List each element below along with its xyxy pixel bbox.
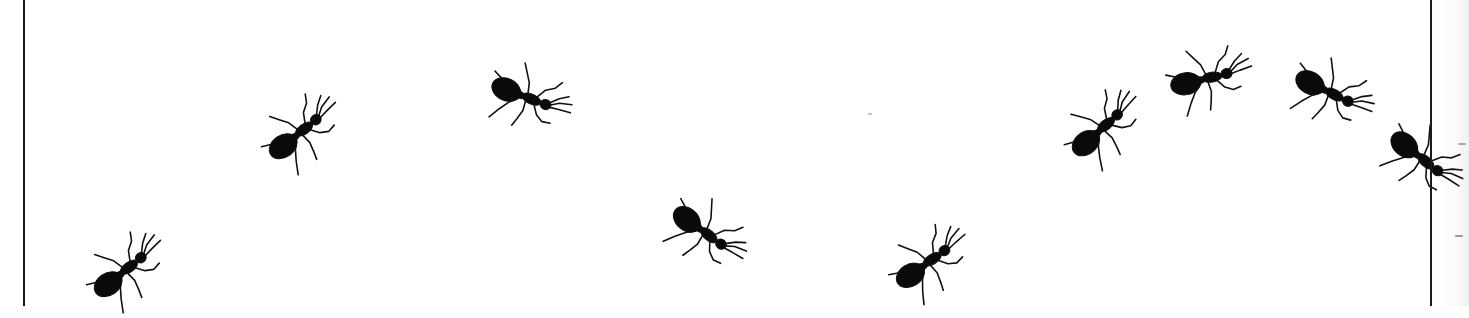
ant-silhouette — [47, 195, 203, 318]
ant-silhouette — [627, 155, 783, 309]
right-border-line — [1430, 0, 1432, 306]
ant-silhouette — [851, 188, 1006, 318]
left-border-line — [23, 0, 25, 306]
ant-silhouette — [222, 57, 378, 208]
ant-silhouette — [451, 26, 602, 167]
dust-speck — [868, 113, 872, 115]
dust-speck — [1455, 235, 1463, 237]
ant-silhouette — [1139, 18, 1275, 137]
